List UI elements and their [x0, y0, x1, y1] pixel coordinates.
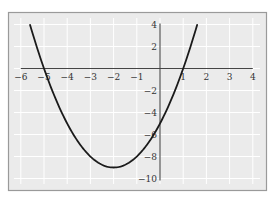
x-tick-label: 4 — [250, 72, 256, 82]
y-tick-label: 2 — [151, 42, 157, 52]
x-tick-label: 2 — [204, 72, 210, 82]
x-tick-label: −4 — [61, 72, 75, 82]
x-tick-label: −3 — [84, 72, 98, 82]
y-tick-label: −4 — [144, 108, 158, 118]
x-tick-label: −2 — [107, 72, 120, 82]
y-tick-label: −2 — [144, 86, 157, 96]
x-tick-label: −1 — [130, 72, 143, 82]
x-tick-label: −6 — [14, 72, 28, 82]
y-tick-label: −8 — [144, 152, 158, 162]
y-tick-label: 4 — [151, 20, 157, 30]
parabola-chart: −6−5−4−3−2−11234 42−2−4−6−8−10 — [0, 0, 273, 201]
plot-frame — [9, 13, 267, 191]
y-tick-label: −10 — [138, 174, 157, 184]
x-tick-label: 3 — [227, 72, 233, 82]
